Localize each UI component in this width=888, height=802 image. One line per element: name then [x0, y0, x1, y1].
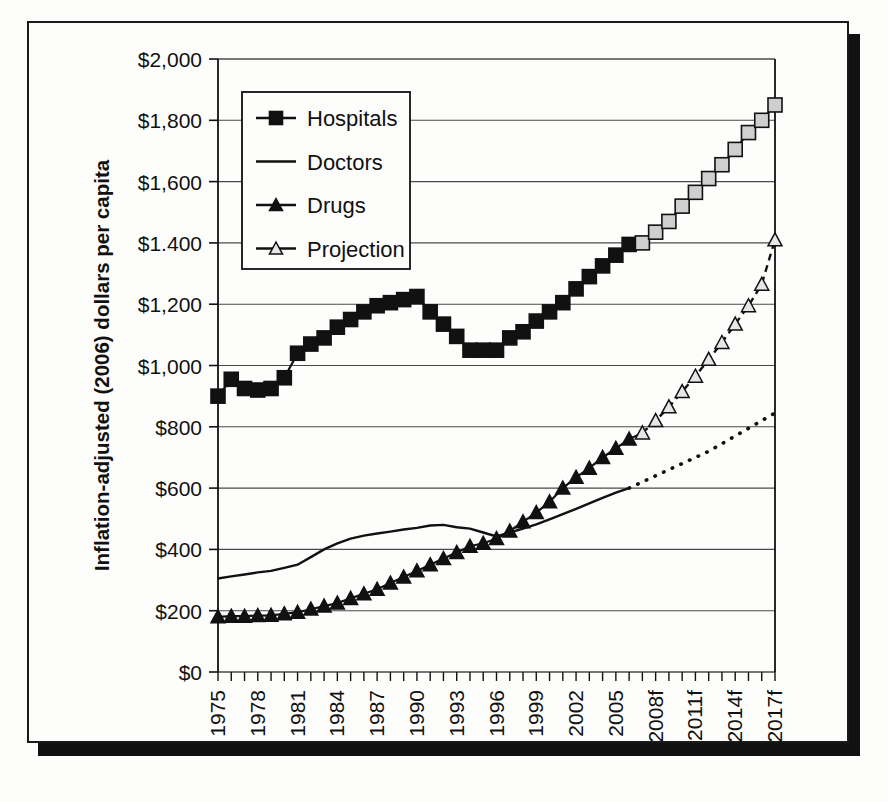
y-tick-label: $800 [155, 416, 202, 439]
legend-label-projection: Projection [307, 237, 405, 262]
x-tick-label: 2011f [683, 690, 706, 741]
data-point-marker [397, 293, 411, 307]
data-point-marker [423, 305, 437, 319]
legend-label-drugs: Drugs [307, 193, 366, 218]
data-point-marker [715, 158, 729, 172]
y-tick-label: $1,800 [138, 109, 202, 132]
data-point-marker [238, 381, 252, 395]
y-tick-label: $1.400 [138, 232, 202, 255]
data-point-marker [490, 343, 504, 357]
data-point-marker [224, 372, 238, 386]
x-tick-label: 2014f [723, 690, 746, 743]
data-point-marker [582, 270, 596, 284]
x-tick-label: 1975 [206, 690, 229, 737]
data-point-marker [688, 185, 702, 199]
data-point-marker [370, 582, 384, 595]
data-point-marker [622, 432, 636, 445]
data-point-marker [529, 314, 543, 328]
data-point-marker [436, 317, 450, 331]
line-chart: $0$200$400$600$800$1,000$1,200$1.400$1,6… [27, 21, 849, 743]
data-point-marker [423, 558, 437, 571]
data-point-marker [569, 282, 583, 296]
data-point-marker [516, 515, 530, 528]
data-point-marker [702, 352, 716, 365]
data-point-marker [768, 233, 782, 246]
data-point-marker [609, 441, 623, 454]
data-point-marker [291, 346, 305, 360]
data-point-marker [715, 336, 729, 349]
data-point-marker [490, 532, 504, 545]
data-point-marker [304, 337, 318, 351]
data-point-marker [609, 248, 623, 262]
data-point-marker [357, 587, 371, 600]
y-tick-label: $200 [155, 600, 202, 623]
y-axis-title: Inflation-adjusted (2006) dollars per ca… [90, 159, 113, 571]
data-point-marker [596, 259, 610, 273]
data-point-marker [211, 389, 225, 403]
data-point-marker [264, 381, 278, 395]
y-tick-label: $1,200 [138, 293, 202, 316]
x-tick-label: 1996 [485, 690, 508, 737]
data-point-marker [569, 470, 583, 483]
data-point-marker [410, 290, 424, 304]
x-tick-label: 2005 [604, 690, 627, 737]
data-point-marker [383, 576, 397, 589]
data-point-marker [277, 371, 291, 385]
y-tick-label: $1,600 [138, 171, 202, 194]
data-point-marker [383, 296, 397, 310]
data-point-marker [410, 564, 424, 577]
data-point-marker [370, 299, 384, 313]
x-tick-label: 1978 [246, 690, 269, 737]
legend-label-hospitals: Hospitals [307, 106, 397, 131]
x-tick-label: 1990 [405, 690, 428, 737]
data-point-marker [675, 199, 689, 213]
data-point-marker [476, 343, 490, 357]
x-tick-label: 1999 [524, 690, 547, 737]
y-tick-label: $2,000 [138, 48, 202, 71]
data-point-marker [436, 552, 450, 565]
y-tick-label: $0 [179, 661, 202, 684]
x-tick-label: 2008f [644, 690, 667, 743]
data-point-marker [344, 313, 358, 327]
data-point-marker [463, 343, 477, 357]
x-tick-label: 1981 [286, 690, 309, 737]
data-point-marker [702, 172, 716, 186]
data-point-marker [450, 545, 464, 558]
data-point-marker [330, 320, 344, 334]
data-point-marker [503, 331, 517, 345]
data-point-marker [344, 591, 358, 604]
x-tick-label: 1984 [325, 690, 348, 737]
x-tick-label: 2002 [564, 690, 587, 737]
data-point-marker [741, 126, 755, 140]
data-point-marker [741, 299, 755, 312]
y-tick-label: $600 [155, 477, 202, 500]
data-point-marker [317, 331, 331, 345]
data-point-marker [728, 142, 742, 156]
doctors-line [218, 488, 629, 578]
drugs-projection-line [642, 240, 775, 433]
data-point-marker [251, 383, 265, 397]
data-point-marker [450, 329, 464, 343]
data-point-marker [662, 214, 676, 228]
data-point-marker [556, 296, 570, 310]
data-point-marker [516, 325, 530, 339]
y-tick-label: $400 [155, 538, 202, 561]
x-tick-label: 1987 [365, 690, 388, 737]
data-point-marker [596, 450, 610, 463]
data-point-marker [622, 237, 636, 251]
x-tick-label: 2017f [763, 690, 786, 743]
data-point-marker [755, 113, 769, 127]
data-point-marker [662, 400, 676, 413]
data-point-marker [768, 98, 782, 112]
data-point-marker [357, 305, 371, 319]
data-point-marker [330, 596, 344, 609]
data-point-marker [649, 225, 663, 239]
x-tick-label: 1993 [445, 690, 468, 737]
scanned-page: $0$200$400$600$800$1,000$1,200$1.400$1,6… [0, 0, 888, 802]
y-tick-label: $1,000 [138, 355, 202, 378]
data-point-marker [397, 570, 411, 583]
data-point-marker [543, 305, 557, 319]
data-point-marker [635, 236, 649, 250]
data-point-marker [270, 112, 283, 125]
legend-label-doctors: Doctors [307, 150, 383, 175]
